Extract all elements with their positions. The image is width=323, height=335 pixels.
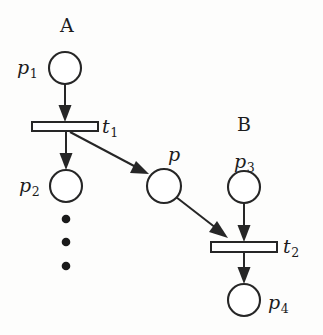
transition-label-t2: t2	[283, 237, 299, 256]
arc-p-to-t2	[176, 197, 228, 238]
place-p4[interactable]	[228, 284, 260, 316]
place-p1[interactable]	[49, 52, 81, 84]
place-p2[interactable]	[50, 170, 82, 202]
transition-t2[interactable]	[211, 242, 277, 252]
arc-p3-to-t2	[238, 203, 251, 242]
place-label-p2: p2	[19, 176, 39, 195]
arc-p1-to-t1	[59, 84, 72, 122]
ellipsis-dot	[62, 215, 71, 224]
petri-net-figure: A B p1 p2 p p3 p4 t1 t2	[0, 0, 323, 335]
ellipsis-dot	[62, 238, 71, 247]
ellipsis-dot	[62, 262, 71, 271]
place-label-p: p	[168, 145, 180, 164]
vertical-ellipsis	[62, 215, 71, 271]
petri-net-canvas	[0, 0, 323, 335]
transition-label-t1: t1	[102, 117, 118, 136]
place-label-p3: p3	[234, 152, 254, 171]
transition-t1[interactable]	[32, 122, 98, 131]
place-p3[interactable]	[228, 171, 260, 203]
group-label-a: A	[60, 16, 74, 35]
place-label-p4: p4	[268, 293, 288, 312]
place-p[interactable]	[147, 169, 181, 203]
arc-t1-to-p2	[60, 131, 73, 170]
place-label-p1: p1	[17, 58, 37, 77]
group-label-b: B	[237, 115, 251, 134]
arc-t2-to-p4	[238, 252, 251, 284]
